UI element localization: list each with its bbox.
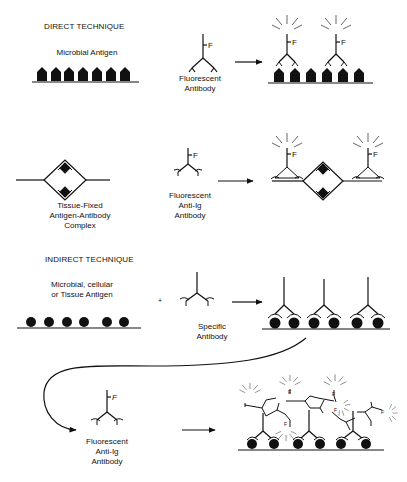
svg-text:F: F: [292, 38, 297, 47]
fluorescent-anti-ig-icon-1: F: [174, 148, 202, 176]
svg-text:F: F: [373, 150, 378, 159]
svg-text:F: F: [284, 421, 287, 427]
direct-result-1: F F: [268, 15, 373, 83]
indirect-result-1: [262, 277, 390, 329]
diagram-canvas: F F F: [0, 0, 407, 482]
fluorescent-antibody-icon-1: F: [189, 34, 217, 72]
svg-text:F: F: [208, 41, 213, 50]
specific-antibody-icon: [180, 272, 214, 306]
svg-text:F: F: [341, 38, 346, 47]
svg-text:F: F: [288, 389, 291, 395]
direct-result-2: F F: [271, 133, 384, 200]
tissue-antigen-row: [17, 317, 141, 328]
svg-text:F: F: [381, 409, 384, 415]
svg-text:F: F: [292, 150, 297, 159]
indirect-result-2: F F F F: [238, 374, 398, 450]
svg-text:F: F: [193, 151, 198, 160]
svg-text:F: F: [112, 393, 118, 402]
microbial-antigen-row: [32, 67, 139, 82]
svg-text:F: F: [332, 391, 335, 397]
fluorescent-anti-ig-icon-2: F: [91, 390, 123, 425]
svg-text:F: F: [334, 407, 337, 413]
tissue-fixed-complex-icon: [16, 160, 110, 200]
